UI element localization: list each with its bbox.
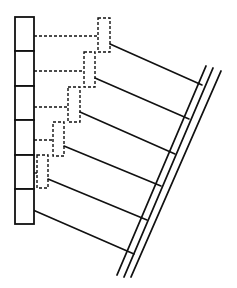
rail-line-3 <box>131 71 221 277</box>
connector-line-1 <box>110 44 202 85</box>
dashed-leader-lines <box>34 36 98 173</box>
connector-line-3 <box>80 112 175 154</box>
dashed-boxes <box>37 18 110 188</box>
column-cell-5 <box>15 155 34 189</box>
connector-lines <box>33 44 202 254</box>
connector-line-6 <box>33 210 134 254</box>
column-cell-1 <box>15 17 34 51</box>
rail-line-1 <box>117 66 206 275</box>
schematic-diagram <box>0 0 237 288</box>
column-cell-2 <box>15 51 34 86</box>
diagram-canvas <box>0 0 237 288</box>
column-cell-4 <box>15 120 34 155</box>
connector-line-5 <box>48 179 147 220</box>
column-cell-3 <box>15 86 34 120</box>
dashed-box-3 <box>68 87 80 122</box>
dashed-box-4 <box>53 122 64 156</box>
column-cell-6 <box>15 189 34 224</box>
parallel-rails <box>117 66 221 277</box>
connector-line-2 <box>95 78 189 119</box>
dashed-box-2 <box>84 52 95 87</box>
connector-line-4 <box>64 146 161 186</box>
dashed-box-5 <box>37 155 48 188</box>
rail-line-2 <box>124 68 213 277</box>
cell-column <box>15 17 34 224</box>
dashed-box-1 <box>98 18 110 52</box>
